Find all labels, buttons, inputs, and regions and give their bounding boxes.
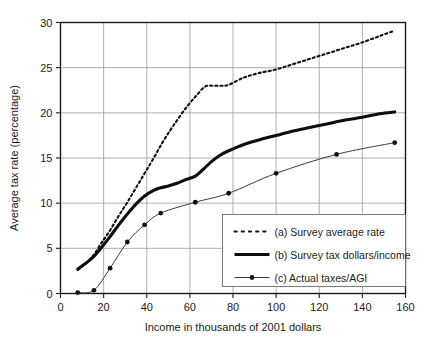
data-point-marker-c [193, 200, 198, 205]
y-tick-label: 10 [40, 197, 52, 209]
legend-item-label: (a) Survey average rate [275, 226, 385, 238]
x-tick-label: 40 [141, 301, 153, 313]
y-tick-label: 0 [46, 288, 52, 300]
y-tick-label: 5 [46, 242, 52, 254]
x-tick-label: 0 [57, 301, 63, 313]
x-tick-label: 60 [184, 301, 196, 313]
data-point-marker-c [158, 211, 163, 216]
x-tick-label: 80 [227, 301, 239, 313]
x-axis-title: Income in thousands of 2001 dollars [145, 321, 322, 333]
x-tick-label: 140 [353, 301, 371, 313]
legend-item-label: (b) Survey tax dollars/income [275, 249, 411, 261]
y-tick-label: 15 [40, 152, 52, 164]
data-point-marker-c [108, 266, 113, 271]
x-tick-label: 100 [267, 301, 285, 313]
chart-figure: 020406080100120140160 051015202530 Incom… [0, 0, 428, 348]
legend-item-label: (c) Actual taxes/AGI [275, 272, 368, 284]
data-point-marker-c [92, 288, 97, 293]
data-point-marker-c [334, 152, 339, 157]
y-axis-title: Average tax rate (percentage) [8, 85, 20, 231]
data-point-marker-c [125, 240, 130, 245]
data-point-marker-c [75, 290, 80, 295]
y-tick-label: 25 [40, 62, 52, 74]
y-tick-label: 20 [40, 107, 52, 119]
x-tick-label: 160 [396, 301, 414, 313]
data-point-marker-c [226, 191, 231, 196]
x-tick-label: 120 [310, 301, 328, 313]
y-tick-label: 30 [40, 17, 52, 29]
chart-legend: (a) Survey average rate(b) Survey tax do… [223, 215, 411, 287]
data-point-marker-c [274, 171, 279, 176]
figure-background [0, 0, 428, 348]
chart-canvas: 020406080100120140160 051015202530 Incom… [0, 0, 428, 348]
legend-swatch-marker-dot-icon [250, 275, 255, 280]
x-tick-label: 20 [98, 301, 110, 313]
data-point-marker-c [392, 140, 397, 145]
data-point-marker-c [142, 222, 147, 227]
